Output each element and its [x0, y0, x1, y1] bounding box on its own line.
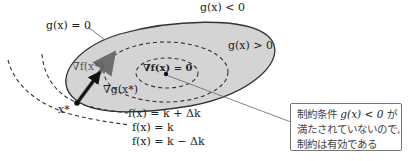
callout-line2: 満たされていないので, — [297, 122, 395, 137]
label-grad-g-opt: ∇g(x*) — [103, 84, 138, 95]
label-grad-f-opt: ∇f(x*) — [72, 61, 104, 72]
label-boundary: g(x) = 0 — [46, 20, 91, 31]
label-optimum: x* — [58, 104, 70, 115]
callout-box: 制約条件 g(x) < 0 が 満たされていないので, 制約は有効である — [290, 103, 402, 151]
label-contour-k-minus-dk: f(x) = k − Δk — [132, 136, 205, 147]
label-grad-f-zero: ∇f(x) = 0 — [143, 63, 193, 73]
callout-line1-prefix: 制約条件 — [297, 108, 337, 120]
optimum-point — [74, 100, 80, 106]
label-contour-k-plus-dk: f(x) = k + Δk — [128, 108, 201, 119]
label-contour-k: f(x) = k — [132, 122, 174, 133]
callout-line1-suffix: が — [387, 108, 397, 120]
label-region-outside: g(x) < 0 — [200, 2, 245, 13]
callout-line1-math: g(x) < 0 — [340, 108, 383, 120]
diagram-canvas: g(x) < 0 g(x) = 0 g(x) > 0 ∇f(x*) ∇g(x*)… — [0, 0, 411, 161]
callout-line3: 制約は有効である — [297, 137, 395, 152]
label-region-inside: g(x) > 0 — [228, 40, 273, 51]
